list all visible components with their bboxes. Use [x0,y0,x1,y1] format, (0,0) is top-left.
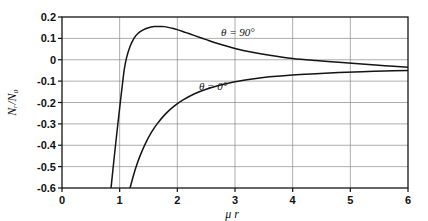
curve-series-1 [111,26,408,188]
data-curves [111,26,408,188]
axis-tick-marks [58,17,408,192]
y-tick-label: -0.3 [37,118,56,130]
curve-label-2: θ = 0° [199,80,228,92]
y-axis-title: Nᵣ/N₀ [5,89,19,116]
x-tick-label: 0 [59,194,65,206]
y-tick-label: -0.4 [37,139,57,151]
x-tick-label: 6 [405,194,411,206]
x-axis-tick-labels: 0123456 [59,194,411,206]
chart-figure: 0123456 0.20.10-0.1-0.2-0.3-0.4-0.5-0.6 … [0,0,428,221]
y-tick-label: -0.5 [37,161,56,173]
x-tick-label: 2 [174,194,180,206]
x-tick-label: 5 [347,194,353,206]
x-tick-label: 3 [232,194,238,206]
y-axis-tick-labels: 0.20.10-0.1-0.2-0.3-0.4-0.5-0.6 [37,11,57,194]
x-axis-title: μ r [224,207,239,221]
y-tick-label: 0.2 [41,11,56,23]
y-tick-label: -0.1 [37,75,56,87]
x-tick-label: 1 [117,194,123,206]
x-tick-label: 4 [290,194,297,206]
y-tick-label: -0.6 [37,182,56,194]
line-chart: 0123456 0.20.10-0.1-0.2-0.3-0.4-0.5-0.6 … [0,0,428,221]
y-tick-label: -0.2 [37,97,56,109]
y-tick-label: 0.1 [41,32,56,44]
curve-label-1: θ = 90° [221,26,255,38]
curve-annotations: θ = 90°θ = 0° [199,26,255,92]
curve-series-2 [130,70,408,188]
y-tick-label: 0 [50,54,56,66]
